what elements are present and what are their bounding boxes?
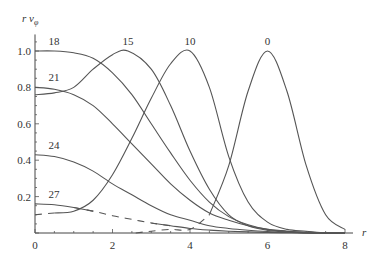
x-tick-label: 4 <box>187 239 193 251</box>
series-line-15 <box>35 50 345 233</box>
x-axis-label: r <box>362 226 367 238</box>
x-tick-label: 6 <box>265 239 271 251</box>
series-label-15: 15 <box>123 35 135 47</box>
series-line-24 <box>35 155 345 233</box>
x-tick-label: 2 <box>110 239 116 251</box>
y-tick-label: 0.8 <box>17 81 31 93</box>
x-tick-label: 0 <box>32 239 38 251</box>
series-label-0: 0 <box>265 35 271 47</box>
series-label-27: 27 <box>49 188 61 200</box>
y-tick-label: 0.2 <box>17 191 31 203</box>
series-line-27 <box>74 208 171 226</box>
curve-labels: 0101518212427 <box>49 35 271 200</box>
series-line-0 <box>209 51 345 229</box>
series-line-10 <box>35 213 54 215</box>
y-tick-label: 0.4 <box>17 154 31 166</box>
chart: 024680.20.40.60.81.0 0101518212427 r vφ … <box>0 0 383 260</box>
series-label-21: 21 <box>49 71 60 83</box>
series-line-21 <box>35 87 345 233</box>
y-tick-label: 1.0 <box>17 45 31 57</box>
series-line-0 <box>136 215 210 233</box>
series-label-10: 10 <box>185 35 197 47</box>
y-axis-label: r vφ <box>22 12 39 27</box>
series-label-24: 24 <box>49 139 61 151</box>
x-tick-label: 8 <box>342 239 348 251</box>
series-line-10 <box>54 50 345 233</box>
series-line-27 <box>35 204 93 211</box>
series-label-18: 18 <box>49 35 61 47</box>
y-tick-label: 0.6 <box>17 118 31 130</box>
curves <box>35 50 345 233</box>
series-line-18 <box>35 51 345 233</box>
